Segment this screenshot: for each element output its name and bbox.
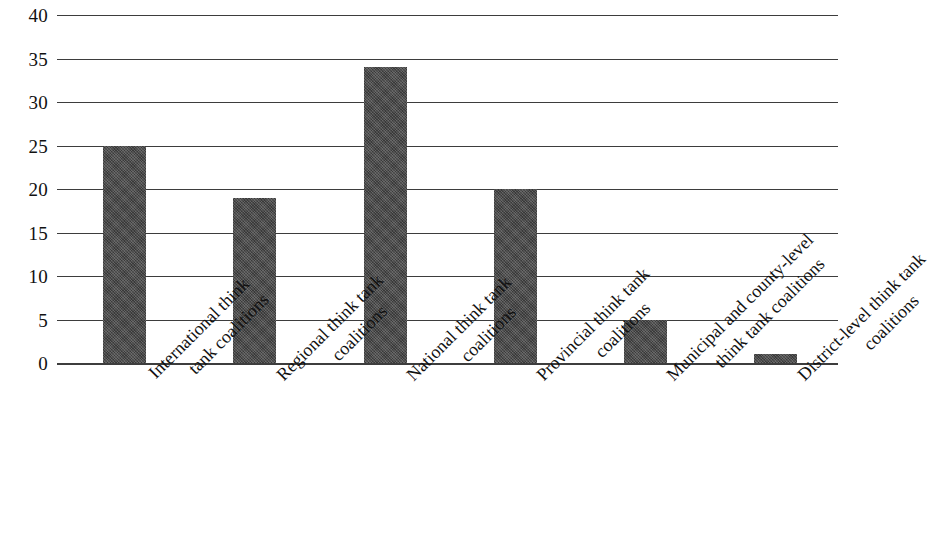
- y-tick-label: 20: [2, 180, 48, 199]
- bar: [103, 146, 146, 364]
- gridline: [57, 146, 838, 147]
- y-tick-label: 5: [2, 311, 48, 330]
- gridline: [57, 15, 838, 16]
- y-tick-label: 35: [2, 50, 48, 69]
- x-axis-labels: International think tank coalitions Regi…: [0, 363, 838, 556]
- gridline: [57, 59, 838, 60]
- y-tick-label: 40: [2, 6, 48, 25]
- y-tick-label: 30: [2, 93, 48, 112]
- y-tick-label: 10: [2, 267, 48, 286]
- y-tick-label: 25: [2, 137, 48, 156]
- gridline: [57, 276, 838, 277]
- y-tick-label: 15: [2, 224, 48, 243]
- bar: [754, 354, 797, 363]
- y-axis: 40 35 30 25 20 15 10 5 0: [0, 15, 48, 363]
- gridline: [57, 102, 838, 103]
- gridline: [57, 189, 838, 190]
- gridline: [57, 233, 838, 234]
